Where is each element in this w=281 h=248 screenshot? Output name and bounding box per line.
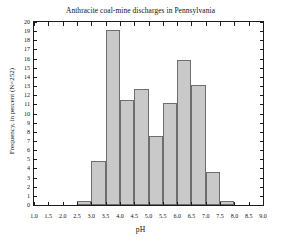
y-axis-tick-mark	[260, 114, 264, 115]
y-axis-tick-mark	[260, 187, 264, 188]
y-axis-tick-mark	[33, 123, 37, 124]
x-axis-tick-label: 5.0	[145, 213, 153, 219]
y-axis-tick-mark	[33, 95, 37, 96]
y-axis-tick-label: 6	[2, 147, 30, 153]
x-axis-tick-mark	[206, 22, 207, 26]
x-axis-tick-mark	[249, 22, 250, 26]
bars-layer	[34, 22, 263, 205]
y-axis-tick-mark	[33, 68, 37, 69]
y-axis-tick-label: 3	[2, 175, 30, 181]
x-axis-tick-label: 4.0	[116, 213, 124, 219]
x-axis-tick-mark	[149, 202, 150, 206]
x-axis-tick-mark	[134, 202, 135, 206]
x-axis-tick-mark	[134, 22, 135, 26]
x-axis-tick-mark	[220, 22, 221, 26]
y-axis-tick-label: 11	[2, 101, 30, 107]
x-axis-tick-mark	[234, 202, 235, 206]
x-axis-tick-mark	[63, 22, 64, 26]
x-axis-tick-label: 6.0	[173, 213, 181, 219]
x-axis-tick-mark	[106, 202, 107, 206]
x-axis-tick-mark	[191, 202, 192, 206]
x-axis-tick-label: 9.0	[259, 213, 267, 219]
y-axis-tick-label: 18	[2, 37, 30, 43]
histogram-bar	[220, 201, 234, 205]
y-axis-tick-label: 1	[2, 193, 30, 199]
y-axis-tick-mark	[260, 40, 264, 41]
y-axis-tick-mark	[33, 49, 37, 50]
x-axis-tick-mark	[34, 22, 35, 26]
y-axis-tick-label: 9	[2, 120, 30, 126]
x-axis-tick-mark	[149, 22, 150, 26]
y-axis-tick-mark	[260, 77, 264, 78]
y-axis-tick-mark	[33, 159, 37, 160]
y-axis-tick-mark	[33, 150, 37, 151]
x-axis-tick-label: 8.5	[245, 213, 253, 219]
y-axis-tick-mark	[33, 77, 37, 78]
y-axis-tick-mark	[260, 178, 264, 179]
y-axis-tick-label: 4	[2, 165, 30, 171]
y-axis-tick-mark	[260, 59, 264, 60]
x-axis-tick-label: 2.0	[59, 213, 67, 219]
y-axis-tick-mark	[260, 150, 264, 151]
y-axis-tick-mark	[33, 40, 37, 41]
y-axis-tick-labels: 01234567891011121314151617181920	[0, 21, 33, 206]
x-axis-tick-mark	[163, 22, 164, 26]
x-axis-tick-label: 8.0	[231, 213, 239, 219]
y-axis-tick-mark	[260, 86, 264, 87]
x-axis-tick-mark	[63, 202, 64, 206]
y-axis-tick-mark	[33, 114, 37, 115]
x-axis-tick-mark	[206, 202, 207, 206]
y-axis-tick-mark	[33, 196, 37, 197]
x-axis-tick-label: 1.0	[30, 213, 38, 219]
x-axis-tick-mark	[120, 22, 121, 26]
y-axis-tick-label: 8	[2, 129, 30, 135]
x-axis-tick-labels: 1.01.52.02.53.03.54.04.55.05.56.06.57.07…	[0, 206, 281, 226]
y-axis-tick-mark	[33, 141, 37, 142]
y-axis-tick-label: 17	[2, 46, 30, 52]
y-axis-tick-label: 20	[2, 19, 30, 25]
histogram-bar	[91, 161, 105, 205]
y-axis-tick-mark	[260, 141, 264, 142]
y-axis-tick-mark	[260, 95, 264, 96]
y-axis-tick-label: 14	[2, 74, 30, 80]
x-axis-tick-label: 7.5	[216, 213, 224, 219]
histogram-bar	[77, 201, 91, 205]
y-axis-tick-mark	[33, 132, 37, 133]
x-axis-tick-label: 5.5	[159, 213, 167, 219]
y-axis-tick-mark	[260, 132, 264, 133]
x-axis-tick-mark	[177, 202, 178, 206]
histogram-bar	[163, 103, 177, 205]
plot-area	[33, 21, 264, 206]
x-axis-tick-mark	[220, 202, 221, 206]
x-axis-tick-label: 1.5	[45, 213, 53, 219]
x-axis-tick-mark	[263, 202, 264, 206]
x-axis-tick-mark	[234, 22, 235, 26]
y-axis-tick-label: 10	[2, 111, 30, 117]
y-axis-tick-mark	[260, 196, 264, 197]
x-axis-tick-mark	[106, 22, 107, 26]
x-axis-tick-mark	[34, 202, 35, 206]
y-axis-tick-mark	[260, 68, 264, 69]
x-axis-tick-label: 2.5	[73, 213, 81, 219]
x-axis-tick-mark	[77, 202, 78, 206]
x-axis-tick-mark	[163, 202, 164, 206]
x-axis-tick-mark	[48, 202, 49, 206]
x-axis-label: pH	[0, 225, 281, 234]
y-axis-tick-mark	[33, 178, 37, 179]
histogram-bar	[149, 136, 163, 205]
histogram-bar	[191, 85, 205, 205]
x-axis-tick-mark	[77, 22, 78, 26]
x-axis-tick-label: 6.5	[188, 213, 196, 219]
histogram-figure: Anthracite coal-mine discharges in Penns…	[0, 0, 281, 248]
histogram-bar	[177, 60, 191, 205]
y-axis-tick-mark	[260, 123, 264, 124]
y-axis-tick-label: 16	[2, 56, 30, 62]
y-axis-tick-mark	[260, 31, 264, 32]
histogram-bar	[120, 100, 134, 205]
y-axis-tick-mark	[260, 49, 264, 50]
x-axis-tick-label: 3.0	[88, 213, 96, 219]
y-axis-tick-mark	[33, 104, 37, 105]
x-axis-tick-mark	[249, 202, 250, 206]
y-axis-tick-label: 15	[2, 65, 30, 71]
y-axis-tick-mark	[33, 168, 37, 169]
